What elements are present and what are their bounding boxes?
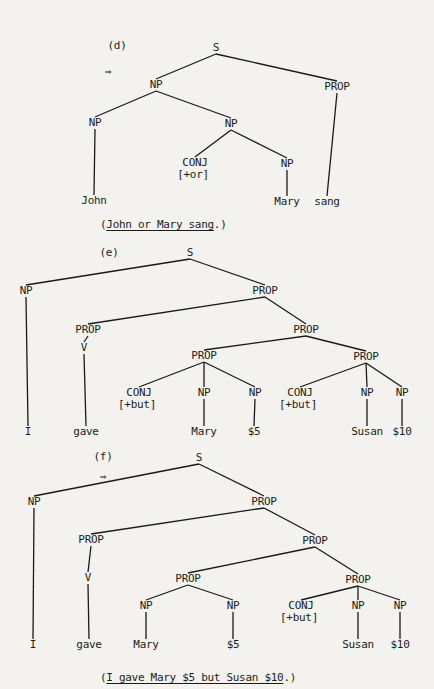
tree-d-edge-np1-np2 (95, 91, 156, 117)
tree-f-node-prop: PROP (175, 573, 200, 585)
tree-d-edge-s-np1 (156, 54, 216, 79)
tree-e-node-prop: PROP (75, 324, 100, 336)
tree-e-edge-np3-w_5 (254, 399, 255, 426)
tree-e-edge-prop5-np4 (366, 363, 367, 387)
tree-d-word-mary: Mary (274, 196, 299, 208)
tree-f-node-s: S (196, 452, 202, 464)
tree-d-node-np: NP (150, 79, 163, 91)
tree-f-edge-v-w_gave (88, 584, 89, 639)
tree-e-edge-np1-w_i (26, 297, 28, 426)
tree-d-conj-feature: [+or] (177, 169, 209, 181)
tree-f-node-np: NP (140, 600, 153, 612)
tree-f-edge-prop3-prop4 (188, 547, 315, 573)
tree-e-node-prop: PROP (353, 351, 378, 363)
tree-e-conj-feature: [+but] (279, 399, 317, 411)
tree-d-label: (d) (108, 40, 127, 52)
tree-e-edge-prop5-conj2 (300, 363, 366, 387)
tree-f-node-v: V (85, 572, 91, 584)
tree-d-edge-np3-conj1 (195, 130, 231, 157)
tree-d-edge-np2-w_john (94, 129, 95, 195)
tree-f-word-gave: gave (76, 639, 101, 651)
tree-d-word-john: John (81, 195, 106, 207)
caption-sentence: I gave Mary $5 but Susan $10 (106, 671, 283, 684)
tree-f-node-prop: PROP (251, 496, 276, 508)
tree-d-caption: (John or Mary sang.) (100, 219, 226, 231)
tree-f-node-np: NP (394, 600, 407, 612)
tree-f-word-i: I (30, 639, 36, 651)
tree-f-caption: (I gave Mary $5 but Susan $10.) (100, 672, 296, 684)
tree-f-conj-feature: [+but] (280, 612, 318, 624)
tree-f-edge-prop2-v (88, 546, 91, 572)
tree-f-node-prop: PROP (78, 534, 103, 546)
tree-f-node-np: NP (227, 600, 240, 612)
tree-e-word-i: I (25, 426, 31, 438)
tree-e-edge-s-np1 (26, 259, 190, 285)
tree-e-edge-prop3-prop4 (204, 336, 306, 350)
tree-f-edge-prop4-np2 (146, 585, 188, 600)
tree-e-node-v: V (81, 342, 87, 354)
tree-e-node-prop: PROP (293, 324, 318, 336)
tree-e-edge-prop3-prop5 (306, 336, 366, 351)
tree-e-edge-prop4-np3 (204, 362, 255, 387)
tree-d-node-np: NP (281, 158, 294, 170)
tree-e-edge-prop4-conj1 (139, 362, 204, 387)
tree-e-edge-prop5-np5 (366, 363, 402, 387)
tree-e-word-gave: gave (73, 426, 98, 438)
tree-e-node-np: NP (361, 387, 374, 399)
tree-e-word-5: $5 (248, 426, 261, 438)
caption-close-paren: .) (214, 218, 227, 231)
tree-f-word-mary: Mary (133, 639, 158, 651)
tree-d-edge-s-prop1 (216, 54, 337, 81)
tree-f-edge-prop4-np3 (188, 585, 233, 600)
tree-d-node-s: S (213, 42, 219, 54)
tree-e-node-prop: PROP (191, 350, 216, 362)
tree-d-word-sang: sang (314, 196, 339, 208)
tree-d-edge-prop1-w_sang (327, 93, 337, 196)
tree-f-word-10: $10 (391, 639, 410, 651)
tree-d-node-np: NP (225, 118, 238, 130)
tree-f-edge-np1-w_i (33, 508, 34, 639)
tree-f-word-5: $5 (227, 639, 240, 651)
tree-f-node-np: NP (28, 496, 41, 508)
tree-f-edge-prop3-prop5 (315, 547, 358, 574)
tree-e-node-s: S (187, 247, 193, 259)
tree-e-edge-v-w_gave (84, 354, 86, 426)
tree-f-node-prop: PROP (345, 574, 370, 586)
tree-f-edge-prop1-prop2 (91, 508, 264, 534)
tree-f-edge-prop5-np5 (358, 586, 400, 600)
tree-f-node-prop: PROP (302, 535, 327, 547)
syntax-tree-page: (d)⇒SNPPROPNPNPCONJ[+or]NPJohnMarysang(J… (0, 0, 434, 689)
tree-d-edge-np3-np4 (231, 130, 287, 158)
derivation-arrow-icon: ⇒ (100, 471, 106, 483)
tree-f-edge-s-np1 (34, 464, 199, 496)
tree-e-conj-feature: [+but] (118, 399, 156, 411)
tree-e-edge-prop1-prop3 (265, 297, 306, 324)
tree-f-edge-prop5-conj1 (301, 586, 358, 600)
tree-e-edge-prop1-prop2 (88, 297, 265, 324)
caption-sentence: John or Mary sang (106, 218, 213, 231)
tree-e-label: (e) (100, 247, 119, 259)
tree-e-edge-s-prop1 (190, 259, 265, 285)
tree-e-word-mary: Mary (191, 426, 216, 438)
tree-e-node-np: NP (396, 387, 409, 399)
caption-close-paren: .) (283, 671, 296, 684)
tree-f-label: (f) (94, 451, 113, 463)
tree-e-node-np: NP (249, 387, 262, 399)
tree-f-edge-s-prop1 (199, 464, 264, 496)
tree-d-node-prop: PROP (324, 81, 349, 93)
tree-e-word-10: $10 (393, 426, 412, 438)
tree-e-node-prop: PROP (252, 285, 277, 297)
tree-d-edge-np1-np3 (156, 91, 231, 118)
tree-e-node-np: NP (198, 387, 211, 399)
tree-e-node-np: NP (20, 285, 33, 297)
tree-d-node-np: NP (89, 117, 102, 129)
tree-e-word-susan: Susan (351, 426, 383, 438)
derivation-arrow-icon: ⇒ (105, 66, 111, 78)
tree-f-word-susan: Susan (342, 639, 374, 651)
tree-f-node-np: NP (352, 600, 365, 612)
tree-f-edge-prop1-prop3 (264, 508, 315, 535)
